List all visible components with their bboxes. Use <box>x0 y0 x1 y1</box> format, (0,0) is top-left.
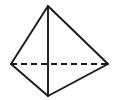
tetrahedron-figure: Tetrahedron Line drawing of a tetrahedro… <box>0 0 116 100</box>
